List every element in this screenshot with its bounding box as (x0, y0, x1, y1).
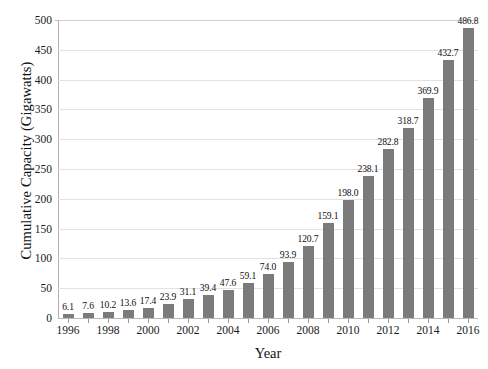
gridline-500 (58, 20, 478, 21)
bar-value-label: 282.8 (377, 136, 398, 147)
bar: 93.9 (283, 262, 294, 318)
y-tick-label: 500 (6, 14, 52, 26)
y-tick-label: 150 (6, 223, 52, 235)
x-tick-label: 2010 (337, 324, 360, 336)
bar-value-label: 238.1 (357, 163, 378, 174)
gridline-350 (58, 109, 478, 110)
bar: 198.0 (343, 200, 354, 318)
bar: 486.8 (463, 28, 474, 318)
bar: 17.4 (143, 308, 154, 318)
bar: 6.1 (63, 314, 74, 318)
x-axis-tick (408, 319, 409, 323)
x-axis-tick (268, 319, 269, 323)
x-axis-tick (308, 319, 309, 323)
bar-chart: Cumulative Capacity (Gigawatts) 05010015… (0, 0, 488, 369)
gridline-400 (58, 80, 478, 81)
bar: 10.2 (103, 312, 114, 318)
bar: 318.7 (403, 128, 414, 318)
x-axis-tick (148, 319, 149, 323)
gridline-150 (58, 229, 478, 230)
y-tick-label: 100 (6, 252, 52, 264)
x-axis-tick (388, 319, 389, 323)
y-tick-label: 300 (6, 133, 52, 145)
y-tick-label: 200 (6, 193, 52, 205)
x-axis-tick (188, 319, 189, 323)
bar: 159.1 (323, 223, 334, 318)
bar: 7.6 (83, 313, 94, 318)
bar: 238.1 (363, 176, 374, 318)
gridline-450 (58, 50, 478, 51)
x-axis-tick (228, 319, 229, 323)
x-tick-label: 2014 (417, 324, 440, 336)
y-tick-label: 0 (6, 312, 52, 324)
bar-value-label: 159.1 (317, 210, 338, 221)
bar-value-label: 318.7 (397, 115, 418, 126)
x-tick-label: 1996 (57, 324, 80, 336)
bar-value-label: 31.1 (180, 286, 196, 297)
bar: 282.8 (383, 149, 394, 318)
gridline-200 (58, 199, 478, 200)
x-axis-tick (248, 319, 249, 323)
x-tick-label: 2006 (257, 324, 280, 336)
bar-value-label: 369.9 (417, 85, 438, 96)
x-axis-tick (168, 319, 169, 323)
bar-value-label: 23.9 (160, 291, 176, 302)
x-axis-tick (468, 319, 469, 323)
x-axis: 1996199820002002200420062008201020122014… (58, 319, 478, 347)
bar-value-label: 59.1 (240, 270, 256, 281)
bar-value-label: 120.7 (297, 233, 318, 244)
bar-value-label: 432.7 (437, 47, 458, 58)
x-tick-label: 2008 (297, 324, 320, 336)
x-axis-tick (328, 319, 329, 323)
x-axis-title: Year (58, 345, 478, 362)
x-axis-tick (128, 319, 129, 323)
x-axis-tick (88, 319, 89, 323)
bar: 31.1 (183, 299, 194, 318)
bar-value-label: 486.8 (457, 15, 478, 26)
x-tick-label: 2016 (457, 324, 480, 336)
bar: 432.7 (443, 60, 454, 318)
y-tick-label: 450 (6, 44, 52, 56)
x-tick-label: 2002 (177, 324, 200, 336)
bar-value-label: 47.6 (220, 277, 236, 288)
bar: 47.6 (223, 290, 234, 318)
x-axis-tick (448, 319, 449, 323)
x-axis-tick (68, 319, 69, 323)
bar: 74.0 (263, 274, 274, 318)
y-tick-label: 350 (6, 103, 52, 115)
bar: 23.9 (163, 304, 174, 318)
gridline-100 (58, 258, 478, 259)
x-axis-tick (208, 319, 209, 323)
y-tick-label: 400 (6, 74, 52, 86)
bar: 13.6 (123, 310, 134, 318)
bar-value-label: 6.1 (62, 301, 74, 312)
bar: 59.1 (243, 283, 254, 318)
x-axis-tick (108, 319, 109, 323)
x-axis-tick (348, 319, 349, 323)
gridline-300 (58, 139, 478, 140)
bar-value-label: 13.6 (120, 297, 136, 308)
x-axis-tick (428, 319, 429, 323)
gridline-250 (58, 169, 478, 170)
x-axis-tick (368, 319, 369, 323)
x-tick-label: 2004 (217, 324, 240, 336)
x-axis-tick (288, 319, 289, 323)
bar: 120.7 (303, 246, 314, 318)
bar-value-label: 17.4 (140, 295, 156, 306)
bar: 369.9 (423, 98, 434, 318)
bar-value-label: 10.2 (100, 299, 116, 310)
x-tick-label: 2012 (377, 324, 400, 336)
y-tick-label: 250 (6, 163, 52, 175)
bar-value-label: 39.4 (200, 282, 216, 293)
x-tick-label: 2000 (137, 324, 160, 336)
y-tick-label: 50 (6, 282, 52, 294)
x-tick-label: 1998 (97, 324, 120, 336)
bar-value-label: 74.0 (260, 261, 276, 272)
bar-value-label: 198.0 (337, 187, 358, 198)
bar-value-label: 93.9 (280, 249, 296, 260)
y-axis-tick-labels: 050100150200250300350400450500 (0, 0, 52, 369)
bar: 39.4 (203, 295, 214, 318)
plot-area: 6.17.610.213.617.423.931.139.447.659.174… (58, 20, 478, 318)
bar-value-label: 7.6 (82, 300, 94, 311)
